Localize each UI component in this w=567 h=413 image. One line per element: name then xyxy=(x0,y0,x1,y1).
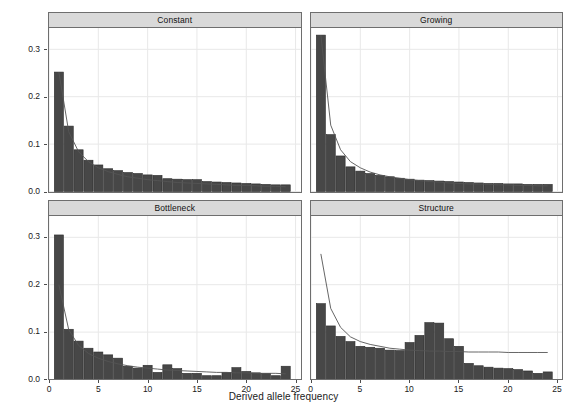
bar xyxy=(493,368,502,379)
bar xyxy=(385,177,394,192)
facet-panel-bottleneck: Bottleneck xyxy=(48,200,302,381)
y-tick-label: 0.0 xyxy=(12,375,40,384)
bar xyxy=(271,375,280,379)
y-tick-label: 0.2 xyxy=(12,280,40,289)
facet-panel-structure: Structure xyxy=(310,200,564,381)
bar xyxy=(336,156,345,192)
bar xyxy=(395,350,404,379)
x-tick-label: 25 xyxy=(547,385,567,394)
plot-area-constant xyxy=(48,27,302,193)
bar-series-constant xyxy=(54,72,290,191)
y-tick-label: 0.1 xyxy=(12,140,40,149)
bar xyxy=(183,180,192,192)
chart-svg-bottleneck xyxy=(49,216,301,380)
bar xyxy=(64,126,73,191)
bar xyxy=(104,354,113,379)
bar xyxy=(405,342,414,379)
x-tick-label: 0 xyxy=(301,385,321,394)
chart-svg-structure xyxy=(311,216,563,380)
bar xyxy=(143,175,152,192)
expectation-curve-growing xyxy=(320,35,547,186)
bar xyxy=(375,175,384,191)
tick-mark xyxy=(148,380,149,383)
bar xyxy=(192,373,201,379)
facet-strip-bottleneck: Bottleneck xyxy=(48,200,302,215)
bar xyxy=(474,365,483,379)
bar-series-growing xyxy=(316,35,552,191)
bar xyxy=(503,368,512,379)
x-tick-label: 5 xyxy=(88,385,108,394)
bar xyxy=(94,352,103,379)
bar xyxy=(212,182,221,191)
tick-mark xyxy=(44,284,47,285)
bar xyxy=(261,184,270,191)
tick-mark xyxy=(44,49,47,50)
bar xyxy=(74,150,83,192)
bar xyxy=(153,372,162,379)
chart-svg-growing xyxy=(311,28,563,192)
bar xyxy=(123,366,132,379)
y-tick-label: 0.3 xyxy=(12,45,40,54)
bar xyxy=(543,371,552,379)
y-tick-label: 0.2 xyxy=(12,92,40,101)
bar xyxy=(84,160,93,191)
facet-strip-growing: Growing xyxy=(310,12,564,27)
tick-mark xyxy=(98,380,99,383)
tick-mark xyxy=(508,380,509,383)
bar xyxy=(232,367,241,379)
tick-mark xyxy=(44,237,47,238)
bar xyxy=(355,346,364,379)
bar xyxy=(212,375,221,379)
x-tick-label: 0 xyxy=(39,385,59,394)
bar xyxy=(513,369,522,379)
bar xyxy=(242,183,251,191)
tick-mark xyxy=(44,192,47,193)
bar xyxy=(163,364,172,379)
bar xyxy=(123,173,132,192)
tick-mark xyxy=(44,144,47,145)
bar xyxy=(345,167,354,192)
bar xyxy=(326,135,335,192)
bar xyxy=(464,363,473,379)
x-tick-label: 20 xyxy=(498,385,518,394)
bar xyxy=(54,234,63,379)
bar xyxy=(232,183,241,192)
facet-panel-growing: Growing xyxy=(310,12,564,193)
tick-mark xyxy=(409,380,410,383)
bar xyxy=(355,171,364,191)
bar xyxy=(316,35,325,191)
tick-mark xyxy=(197,380,198,383)
tick-mark xyxy=(44,332,47,333)
bar xyxy=(252,372,261,379)
bar xyxy=(395,178,404,191)
bar xyxy=(365,173,374,191)
bar-series-bottleneck xyxy=(54,234,290,379)
bar xyxy=(385,350,394,379)
tick-mark xyxy=(311,380,312,383)
y-tick-label: 0.1 xyxy=(12,327,40,336)
bar xyxy=(281,366,290,379)
tick-mark xyxy=(360,380,361,383)
bar xyxy=(345,341,354,379)
facet-strip-structure: Structure xyxy=(310,200,564,215)
bar xyxy=(173,179,182,191)
bar xyxy=(336,336,345,379)
plot-area-growing xyxy=(310,27,564,193)
chart-svg-constant xyxy=(49,28,301,192)
bar xyxy=(424,181,433,192)
bar xyxy=(222,372,231,379)
x-tick-label: 5 xyxy=(350,385,370,394)
bar xyxy=(365,347,374,379)
figure-canvas: Site density Derived allele frequency 0.… xyxy=(0,0,567,413)
bar xyxy=(444,338,453,379)
bar xyxy=(74,341,83,379)
facet-panel-constant: Constant xyxy=(48,12,302,193)
bar xyxy=(252,184,261,192)
plot-area-bottleneck xyxy=(48,215,302,381)
tick-mark xyxy=(557,380,558,383)
bar xyxy=(202,182,211,192)
y-tick-label: 0.0 xyxy=(12,187,40,196)
expectation-curve-structure xyxy=(320,253,547,352)
y-tick-label: 0.3 xyxy=(12,232,40,241)
bar xyxy=(163,179,172,192)
